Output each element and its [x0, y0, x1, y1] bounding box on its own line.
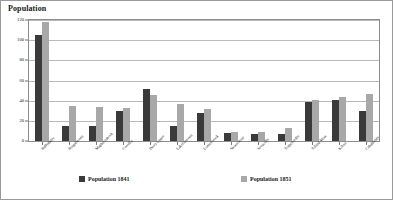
y-axis-tick-label: 20: [19, 117, 24, 122]
bar-group: [89, 20, 103, 141]
x-axis-label-cell: Bingalstown: [57, 143, 81, 175]
bar-group: [35, 20, 49, 141]
bar-group: [116, 20, 130, 141]
x-axis-label-cell: Derry Upper: [138, 143, 162, 175]
bar-1851: [42, 22, 49, 141]
bar-1851: [204, 109, 211, 141]
x-axis-label-cell: Coroflin: [111, 143, 135, 175]
x-axis-label-cell: Ballyduffy: [30, 143, 54, 175]
bar-1841: [170, 126, 177, 141]
bar-group: [305, 20, 319, 141]
chart-legend: Population 1841 Population 1851: [1, 176, 392, 190]
bar-1841: [143, 89, 150, 141]
x-axis-label-cell: Kilrea: [327, 143, 351, 175]
y-axis: 020406080100120: [1, 19, 28, 142]
x-axis-labels: BallyduffyBingalstownMaghernahockCorofli…: [29, 143, 379, 175]
bar-1841: [116, 111, 123, 141]
bar-1841: [278, 134, 285, 141]
bar-group: [251, 20, 265, 141]
bar-1851: [366, 94, 373, 141]
bars-layer: [29, 20, 379, 141]
legend-swatch-1841: [79, 176, 85, 182]
y-axis-tick-label: 80: [19, 57, 24, 62]
bar-group: [224, 20, 238, 141]
bar-group: [332, 20, 346, 141]
bar-group: [170, 20, 184, 141]
legend-item-1841: Population 1841: [79, 176, 130, 182]
bar-1841: [359, 111, 366, 141]
x-axis-label-cell: Toland Mow: [300, 143, 324, 175]
bar-1841: [224, 133, 231, 141]
bar-1851: [123, 108, 130, 141]
x-axis-label-cell: Seeacolly: [246, 143, 270, 175]
x-axis-label-cell: Newermine: [219, 143, 243, 175]
bar-1841: [89, 126, 96, 141]
legend-item-1851: Population 1851: [241, 176, 292, 182]
bar-group: [143, 20, 157, 141]
legend-swatch-1851: [241, 176, 247, 182]
x-axis-label-cell: Cahaldiddy: [354, 143, 378, 175]
chart-title: Population: [8, 4, 46, 13]
bar-group: [278, 20, 292, 141]
y-axis-tick-label: 120: [17, 17, 24, 22]
y-axis-tick-label: 100: [17, 37, 24, 42]
bar-1851: [96, 107, 103, 141]
bar-1851: [69, 106, 76, 141]
bar-1851: [150, 95, 157, 141]
bar-1851: [285, 128, 292, 141]
bar-1841: [251, 134, 258, 141]
bar-1841: [197, 113, 204, 141]
bar-1841: [35, 35, 42, 141]
bar-1851: [339, 97, 346, 141]
bar-group: [197, 20, 211, 141]
bar-1841: [305, 102, 312, 141]
legend-label-1841: Population 1841: [88, 176, 130, 182]
bar-1841: [62, 126, 69, 141]
x-axis-label-cell: Maghernahock: [84, 143, 108, 175]
bar-1841: [332, 100, 339, 141]
x-axis-label-cell: Toaprystolly: [273, 143, 297, 175]
y-axis-tick-label: 40: [19, 97, 24, 102]
y-axis-tick-label: 0: [22, 138, 24, 143]
legend-label-1851: Population 1851: [250, 176, 292, 182]
bar-1851: [177, 104, 184, 141]
x-axis-label-cell: Lakelinstown: [165, 143, 189, 175]
y-axis-tick-label: 60: [19, 77, 24, 82]
bar-group: [62, 20, 76, 141]
x-axis-label-cell: Lomeybrook: [192, 143, 216, 175]
bar-group: [359, 20, 373, 141]
chart-container: Population 020406080100120 BallyduffyBin…: [0, 0, 393, 200]
bar-1851: [312, 100, 319, 141]
